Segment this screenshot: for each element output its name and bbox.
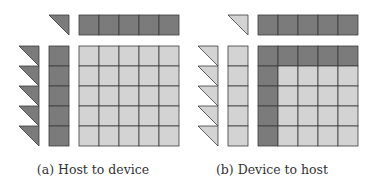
matrix-cell [278, 86, 298, 106]
matrix-cell [258, 86, 278, 106]
left-triangle [198, 46, 218, 66]
matrix-cell [318, 106, 338, 126]
matrix-cell [159, 86, 179, 106]
top-strip-cell [79, 15, 99, 35]
left-triangle [19, 46, 39, 66]
matrix-cell [338, 46, 358, 66]
matrix-cell [159, 106, 179, 126]
left-strip-cell [49, 126, 69, 146]
matrix-cell [258, 66, 278, 86]
matrix-cell [298, 46, 318, 66]
left-strip-cell [228, 106, 248, 126]
matrix-cell [258, 46, 278, 66]
matrix-cell [79, 66, 99, 86]
left-triangle [198, 86, 218, 106]
left-strip-cell [228, 46, 248, 66]
matrix-cell [99, 106, 119, 126]
matrix-cell [258, 126, 278, 146]
matrix-cell [79, 126, 99, 146]
matrix-cell [99, 86, 119, 106]
panel-device-to-host: (b) Device to host [179, 0, 365, 187]
left-triangle [19, 106, 39, 126]
matrix-cell [278, 126, 298, 146]
matrix-cell [159, 126, 179, 146]
matrix-cell [159, 66, 179, 86]
left-strip-cell [49, 66, 69, 86]
matrix-cell [318, 66, 338, 86]
top-strip-cell [139, 15, 159, 35]
matrix-cell [119, 46, 139, 66]
corner-triangle [49, 15, 69, 35]
matrix-cell [298, 106, 318, 126]
matrix-cell [318, 126, 338, 146]
matrix-cell [139, 86, 159, 106]
left-triangle [19, 86, 39, 106]
matrix-cell [318, 86, 338, 106]
left-strip-cell [228, 126, 248, 146]
top-strip-cell [338, 15, 358, 35]
matrix-cell [79, 86, 99, 106]
panel-host-to-device: (a) Host to device [0, 0, 186, 187]
matrix-cell [99, 66, 119, 86]
left-triangle [19, 126, 39, 146]
left-strip-cell [228, 86, 248, 106]
matrix-cell [119, 86, 139, 106]
matrix-cell [139, 106, 159, 126]
matrix-cell [159, 46, 179, 66]
device-to-host-diagram [179, 0, 365, 160]
top-strip-cell [159, 15, 179, 35]
matrix-cell [318, 46, 338, 66]
caption-device-to-host: (b) Device to host [179, 162, 365, 177]
matrix-cell [278, 46, 298, 66]
matrix-cell [119, 106, 139, 126]
left-triangle [19, 66, 39, 86]
matrix-cell [278, 66, 298, 86]
matrix-cell [298, 86, 318, 106]
top-strip-cell [258, 15, 278, 35]
matrix-cell [338, 126, 358, 146]
host-to-device-diagram [0, 0, 186, 160]
top-strip-cell [318, 15, 338, 35]
matrix-cell [139, 46, 159, 66]
matrix-cell [298, 126, 318, 146]
top-strip-cell [119, 15, 139, 35]
left-triangle [198, 126, 218, 146]
matrix-cell [298, 66, 318, 86]
top-strip-cell [298, 15, 318, 35]
matrix-cell [99, 126, 119, 146]
left-strip-cell [49, 106, 69, 126]
top-strip-cell [99, 15, 119, 35]
matrix-cell [338, 66, 358, 86]
left-strip-cell [228, 66, 248, 86]
matrix-cell [119, 126, 139, 146]
top-strip-cell [278, 15, 298, 35]
matrix-cell [338, 106, 358, 126]
matrix-cell [119, 66, 139, 86]
matrix-cell [338, 86, 358, 106]
corner-triangle [228, 15, 248, 35]
left-triangle [198, 66, 218, 86]
left-triangle [198, 106, 218, 126]
left-strip-cell [49, 86, 69, 106]
caption-host-to-device: (a) Host to device [0, 162, 186, 177]
matrix-cell [278, 106, 298, 126]
matrix-cell [139, 66, 159, 86]
matrix-cell [79, 46, 99, 66]
matrix-cell [139, 126, 159, 146]
matrix-cell [99, 46, 119, 66]
left-strip-cell [49, 46, 69, 66]
matrix-cell [79, 106, 99, 126]
matrix-cell [258, 106, 278, 126]
